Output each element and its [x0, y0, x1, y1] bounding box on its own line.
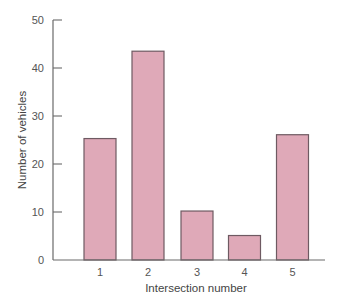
y-tick-label: 30: [32, 110, 44, 122]
x-axis-ticks: 12345: [97, 266, 296, 278]
bar-2: [132, 51, 164, 260]
y-tick-label: 20: [32, 158, 44, 170]
bar-5: [277, 135, 309, 260]
bar-4: [229, 236, 261, 260]
bars: [84, 51, 309, 260]
x-axis-title: Intersection number: [145, 282, 247, 294]
x-tick-label: 5: [289, 266, 295, 278]
x-tick-label: 2: [145, 266, 151, 278]
y-tick-label: 10: [32, 206, 44, 218]
bar-1: [84, 139, 116, 260]
y-tick-label: 0: [38, 254, 44, 266]
x-tick-label: 3: [194, 266, 200, 278]
y-tick-label: 40: [32, 62, 44, 74]
bar-chart: 01020304050 12345 Number of vehicles Int…: [0, 0, 357, 308]
y-tick-label: 50: [32, 14, 44, 26]
x-tick-label: 4: [241, 266, 247, 278]
x-tick-label: 1: [97, 266, 103, 278]
bar-3: [181, 211, 213, 260]
y-axis-title: Number of vehicles: [16, 91, 28, 190]
y-axis-ticks: 01020304050: [32, 14, 62, 266]
